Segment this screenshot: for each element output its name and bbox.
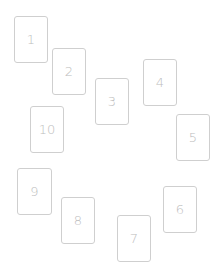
card-9[interactable]: 9 <box>17 168 52 215</box>
card-number: 5 <box>189 131 197 144</box>
card-number: 10 <box>39 123 56 136</box>
card-number: 3 <box>108 95 116 108</box>
card-3[interactable]: 3 <box>95 78 129 125</box>
card-8[interactable]: 8 <box>61 197 95 244</box>
card-number: 4 <box>156 76 164 89</box>
card-number: 9 <box>30 185 38 198</box>
card-number: 2 <box>65 65 73 78</box>
card-6[interactable]: 6 <box>163 186 197 233</box>
card-number: 1 <box>27 33 35 46</box>
card-7[interactable]: 7 <box>117 215 151 262</box>
card-number: 8 <box>74 214 82 227</box>
card-2[interactable]: 2 <box>52 48 86 95</box>
card-5[interactable]: 5 <box>176 114 210 161</box>
card-4[interactable]: 4 <box>143 59 177 106</box>
card-10[interactable]: 10 <box>30 106 64 153</box>
card-number: 6 <box>176 203 184 216</box>
card-1[interactable]: 1 <box>14 16 48 63</box>
card-number: 7 <box>130 232 138 245</box>
